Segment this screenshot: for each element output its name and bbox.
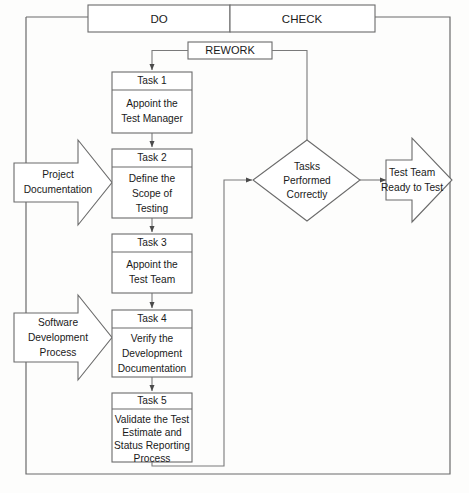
task-2-node: Task 2 Define the Scope of Testing: [112, 149, 192, 218]
input-project-documentation-arrow-shape: [14, 140, 112, 225]
task-2-line-3: Testing: [136, 203, 169, 214]
decision-line-3: Correctly: [287, 189, 329, 200]
connector-rework-to-task1: [152, 51, 188, 71]
task-4-node: Task 4 Verify the Development Documentat…: [112, 310, 192, 377]
task-4-label: Task 4: [137, 313, 167, 324]
task-1-line-1: Appoint the: [126, 98, 178, 109]
output-test-team-ready-line-2: Ready to Test: [381, 182, 443, 193]
task-3-label: Task 3: [137, 237, 167, 248]
task-2-label: Task 2: [137, 152, 167, 163]
task-5-node: Task 5 Validate the Test Estimate and St…: [112, 393, 192, 464]
output-test-team-ready-line-1: Test Team: [389, 167, 435, 178]
task-5-label: Task 5: [137, 395, 167, 406]
task-4-line-2: Development: [122, 348, 182, 359]
decision-line-1: Tasks: [294, 161, 320, 172]
input-project-documentation-line-2: Documentation: [24, 184, 93, 195]
output-test-team-ready: Test Team Ready to Test: [381, 138, 452, 222]
task-1-label: Task 1: [137, 75, 167, 86]
header-cell-do-label: DO: [150, 13, 167, 25]
input-software-development-process-line-3: Process: [40, 347, 77, 358]
task-3-node: Task 3 Appoint the Test Team: [112, 234, 192, 293]
rework-label: REWORK: [205, 44, 255, 56]
task-2-line-2: Scope of: [132, 188, 172, 199]
input-project-documentation: Project Documentation: [14, 140, 112, 225]
diagram-outer-frame: [26, 17, 450, 474]
decision-tasks-performed-correctly: Tasks Performed Correctly: [253, 140, 360, 221]
input-software-development-process-line-1: Software: [38, 317, 79, 328]
input-software-development-process-line-2: Development: [28, 332, 88, 343]
connector-rework-to-decision: [272, 51, 307, 141]
rework-node: REWORK: [188, 42, 272, 59]
header-cell-check-label: CHECK: [282, 13, 323, 25]
decision-line-2: Performed: [283, 175, 331, 186]
flowchart-diagram: DO CHECK REWORK Project Document: [0, 0, 469, 493]
task-5-line-2: Estimate and: [122, 427, 182, 438]
task-1-line-2: Test Manager: [121, 113, 183, 124]
task-4-line-3: Documentation: [118, 363, 187, 374]
flowchart-canvas: DO CHECK REWORK Project Document: [0, 0, 469, 493]
task-2-line-1: Define the: [129, 173, 176, 184]
output-test-team-ready-arrow-shape: [386, 138, 452, 222]
task-3-line-1: Appoint the: [126, 259, 178, 270]
task-5-line-1: Validate the Test: [115, 414, 190, 425]
input-project-documentation-line-1: Project: [42, 169, 74, 180]
task-5-line-3: Status Reporting: [114, 440, 190, 451]
task-1-node: Task 1 Appoint the Test Manager: [112, 72, 192, 133]
task-5-line-4: Process: [134, 453, 171, 464]
header-band: DO CHECK: [88, 5, 375, 32]
input-software-development-process: Software Development Process: [14, 295, 112, 380]
task-4-line-1: Verify the: [131, 333, 174, 344]
task-3-line-2: Test Team: [129, 274, 175, 285]
